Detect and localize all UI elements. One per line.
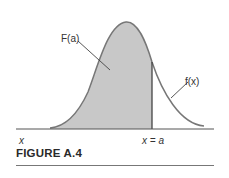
cut-label: x = a [142,136,164,146]
x-axis-label: x [19,136,24,146]
caption-rule [16,165,214,166]
cdf-label-text: F(a) [61,33,79,44]
cdf-label: F(a) [61,34,79,44]
pdf-label-text: f(x) [185,76,199,87]
pdf-label: f(x) [185,77,199,87]
figure-caption: FIGURE A.4 [16,147,82,159]
